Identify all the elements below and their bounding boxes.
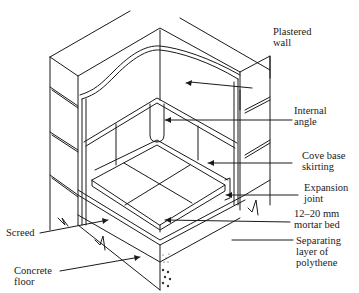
- label-cove-base-skirting: Cove base skirting: [302, 150, 345, 172]
- label-line: Plastered: [273, 26, 312, 37]
- label-line: polythene: [296, 257, 341, 268]
- label-line: layer of: [296, 246, 341, 257]
- label-internal-angle: Internal angle: [294, 105, 327, 127]
- left-wall-top-back-edge: [50, 11, 130, 57]
- label-mortar-bed: 12–20 mm mortar bed: [294, 208, 340, 230]
- label-line: mortar bed: [294, 219, 340, 230]
- label-separating-layer: Separating layer of polythene: [296, 235, 341, 268]
- label-line: 12–20 mm: [294, 208, 340, 219]
- label-line: Concrete: [14, 265, 52, 276]
- label-plastered-wall: Plastered wall: [273, 26, 312, 48]
- label-line: Internal: [294, 105, 327, 116]
- label-concrete-floor: Concrete floor: [14, 265, 52, 287]
- label-line: Expansion: [304, 182, 348, 193]
- label-line: Cove base: [302, 150, 345, 161]
- floor-corner-diagram: Plastered wall Internal angle Cove base …: [0, 0, 359, 293]
- label-line: joint: [304, 193, 348, 204]
- label-line: Screed: [6, 227, 35, 238]
- label-expansion-joint: Expansion joint: [304, 182, 348, 204]
- label-line: wall: [273, 37, 312, 48]
- label-line: Separating: [296, 235, 341, 246]
- label-line: skirting: [302, 161, 345, 172]
- label-line: angle: [294, 116, 327, 127]
- label-line: floor: [14, 276, 52, 287]
- label-screed: Screed: [6, 227, 35, 238]
